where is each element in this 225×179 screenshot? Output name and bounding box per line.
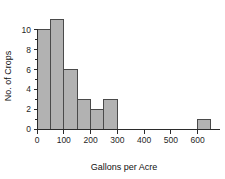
- y-tick-label: 2: [26, 104, 31, 114]
- bars-group: [37, 20, 211, 129]
- y-axis: 0246810: [22, 25, 38, 134]
- histogram-chart: 0246810 0100200300400500600 Gallons per …: [0, 0, 225, 179]
- histogram-bar: [50, 20, 63, 129]
- histogram-bar: [91, 109, 104, 129]
- x-tick-label: 200: [83, 135, 97, 145]
- y-axis-title: No. of Crops: [3, 50, 13, 101]
- histogram-bar: [37, 30, 50, 129]
- x-tick-label: 300: [110, 135, 124, 145]
- histogram-bar: [64, 70, 77, 129]
- histogram-bar: [104, 99, 117, 129]
- y-tick-label: 4: [26, 84, 31, 94]
- x-tick-label: 600: [190, 135, 204, 145]
- x-axis: 0100200300400500600: [35, 130, 220, 146]
- histogram-bar: [198, 119, 211, 129]
- x-tick-label: 100: [57, 135, 71, 145]
- y-tick-label: 6: [26, 65, 31, 75]
- y-tick-label: 0: [26, 124, 31, 134]
- x-tick-label: 0: [35, 135, 40, 145]
- x-tick-label: 400: [137, 135, 151, 145]
- histogram-screenshot: 0246810 0100200300400500600 Gallons per …: [0, 0, 225, 179]
- x-tick-label: 500: [164, 135, 178, 145]
- x-axis-title: Gallons per Acre: [91, 162, 158, 172]
- histogram-bar: [77, 99, 90, 129]
- y-tick-label: 8: [26, 45, 31, 55]
- y-tick-label: 10: [22, 25, 32, 35]
